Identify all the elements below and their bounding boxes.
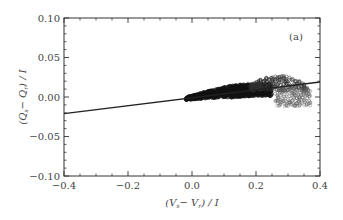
x-tick-label: 0.4 <box>312 180 328 191</box>
y-tick-label: 0.05 <box>38 52 60 63</box>
x-tick-label: 0.2 <box>248 180 264 191</box>
y-axis-label: (Qs− Qr) / I <box>17 68 29 124</box>
x-axis-label: (Vs− Vr) / I <box>165 197 220 209</box>
x-tick-labels: −0.4−0.20.00.20.4 <box>52 180 328 191</box>
y-tick-label: −0.10 <box>29 171 60 182</box>
fit-line <box>64 82 320 114</box>
y-tick-label: −0.05 <box>29 131 60 142</box>
y-tick-label: 0.00 <box>38 92 60 103</box>
x-tick-label: −0.2 <box>116 180 140 191</box>
y-tick-label: 0.10 <box>38 13 60 24</box>
scatter-chart: −0.4−0.20.00.20.4 −0.10−0.050.000.050.10… <box>0 0 343 220</box>
panel-label: (a) <box>289 31 303 42</box>
x-tick-label: 0.0 <box>184 180 200 191</box>
x-tick-label: −0.4 <box>52 180 76 191</box>
y-tick-labels: −0.10−0.050.000.050.10 <box>29 13 60 182</box>
